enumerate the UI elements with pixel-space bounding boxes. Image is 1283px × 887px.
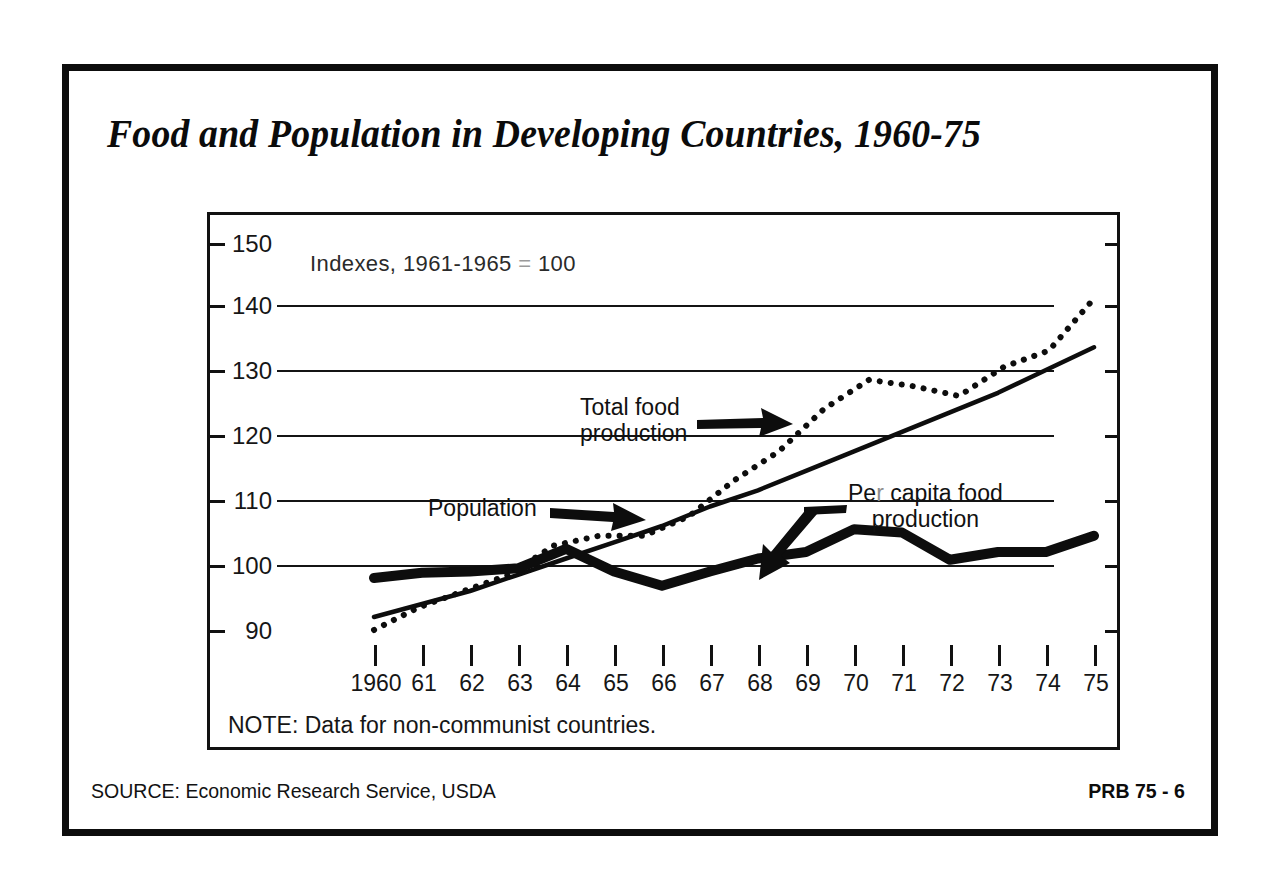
- x-axis-tick-1962: [470, 645, 473, 666]
- annotation-total-food-line2: production: [580, 421, 687, 447]
- y-tick-mark-right-140: [1105, 305, 1120, 308]
- y-axis-tick-90: 90: [210, 619, 272, 643]
- arrow-total-food-production: [697, 408, 793, 437]
- annotation-per-capita-rest: capita food: [884, 480, 1003, 506]
- x-axis-label-1963: 63: [507, 670, 533, 697]
- y-tick-mark: [210, 500, 225, 503]
- page-title: Food and Population in Developing Countr…: [107, 109, 1101, 157]
- x-axis-label-1970: 70: [843, 670, 869, 697]
- y-tick-mark-right-100: [1105, 565, 1120, 568]
- y-axis-tick-150: 150: [210, 232, 272, 256]
- annotation-total-food-production: Total food production: [580, 395, 687, 447]
- arrow-population: [550, 503, 646, 531]
- x-axis-tick-1973: [998, 645, 1001, 666]
- y-axis-label-110: 110: [226, 489, 272, 513]
- x-axis-tick-1961: [422, 645, 425, 666]
- series-total-food-production: [374, 299, 1094, 631]
- y-tick-mark-right-120: [1105, 435, 1120, 438]
- x-axis-tick-1969: [806, 645, 809, 666]
- y-axis-tick-110: 110: [210, 489, 272, 513]
- x-axis-tick-1965: [614, 645, 617, 666]
- publication-code: PRB 75 - 6: [1088, 779, 1185, 803]
- x-axis-label-1962: 62: [459, 670, 485, 697]
- y-tick-mark: [210, 243, 225, 246]
- y-axis-tick-100: 100: [210, 554, 272, 578]
- y-axis-label-120: 120: [226, 424, 272, 448]
- chart-subtitle-equals: =: [518, 251, 531, 276]
- y-axis-tick-130: 130: [210, 359, 272, 383]
- chart-subtitle: Indexes, 1961-1965 = 100: [310, 251, 576, 277]
- annotation-per-capita-r: r: [876, 480, 884, 506]
- x-axis-label-1968: 68: [747, 670, 773, 697]
- y-axis-tick-140: 140: [210, 294, 272, 318]
- chart-note: NOTE: Data for non-communist countries.: [228, 712, 656, 739]
- x-axis-label-1974: 74: [1035, 670, 1061, 697]
- y-tick-mark: [210, 435, 225, 438]
- x-axis-tick-1963: [518, 645, 521, 666]
- x-axis-label-1964: 64: [555, 670, 581, 697]
- x-axis-tick-1966: [662, 645, 665, 666]
- y-axis-label-150: 150: [226, 232, 272, 256]
- y-tick-mark: [210, 370, 225, 373]
- source-label: SOURCE: Economic Research Service, USDA: [91, 779, 496, 803]
- chart-subtitle-value: 100: [538, 251, 576, 276]
- x-axis-tick-1964: [566, 645, 569, 666]
- x-axis-label-1966: 66: [651, 670, 677, 697]
- y-axis-label-130: 130: [226, 359, 272, 383]
- gridline-140: [277, 305, 1054, 307]
- y-axis-label-100: 100: [226, 554, 272, 578]
- annotation-population-label: Population: [428, 496, 537, 522]
- annotation-population: Population: [428, 496, 537, 522]
- x-axis-tick-1970: [854, 645, 857, 666]
- annotation-per-capita-pe: Pe: [848, 480, 876, 506]
- x-axis-tick-1960: [374, 645, 377, 666]
- x-axis-tick-1971: [902, 645, 905, 666]
- y-tick-mark-right-130: [1105, 370, 1120, 373]
- x-axis-tick-1968: [758, 645, 761, 666]
- y-axis-tick-120: 120: [210, 424, 272, 448]
- y-tick-mark-right-150: [1105, 243, 1120, 246]
- y-tick-mark: [210, 565, 225, 568]
- annotation-per-capita-food-production: Per capita food production: [848, 481, 1003, 533]
- gridline-100: [277, 565, 1054, 567]
- annotation-per-capita-line1: Per capita food: [848, 481, 1003, 507]
- x-axis-label-1961: 61: [411, 670, 437, 697]
- y-axis-label-90: 90: [226, 619, 272, 643]
- x-axis-label-1969: 69: [795, 670, 821, 697]
- x-axis-label-1960: 1960: [350, 670, 401, 697]
- x-axis-tick-1967: [710, 645, 713, 666]
- x-axis-label-1965: 65: [603, 670, 629, 697]
- x-axis-label-1975: 75: [1083, 670, 1109, 697]
- x-axis-tick-1972: [950, 645, 953, 666]
- x-axis-label-1973: 73: [987, 670, 1013, 697]
- annotation-per-capita-line2: production: [848, 507, 1003, 533]
- chart-subtitle-prefix: Indexes, 1961-1965: [310, 251, 512, 276]
- x-axis-label-1972: 72: [939, 670, 965, 697]
- y-axis-label-140: 140: [226, 294, 272, 318]
- y-tick-mark-right-90: [1105, 630, 1120, 633]
- x-axis-label-1967: 67: [699, 670, 725, 697]
- y-tick-mark: [210, 305, 225, 308]
- poster-frame: Food and Population in Developing Countr…: [62, 64, 1218, 836]
- arrow-per-capita-shaft-h: [804, 505, 847, 515]
- chart-panel: Indexes, 1961-1965 = 100 150 140 130 120: [207, 212, 1120, 750]
- gridline-130: [277, 370, 1054, 372]
- arrow-per-capita-head: [759, 507, 817, 580]
- y-tick-mark: [210, 630, 225, 633]
- x-axis-tick-1974: [1046, 645, 1049, 666]
- series-per-capita-food-production: [374, 529, 1094, 586]
- y-tick-mark-right-110: [1105, 500, 1120, 503]
- annotation-total-food-line1: Total food: [580, 395, 687, 421]
- x-axis-tick-1975: [1094, 645, 1097, 666]
- x-axis-label-1971: 71: [891, 670, 917, 697]
